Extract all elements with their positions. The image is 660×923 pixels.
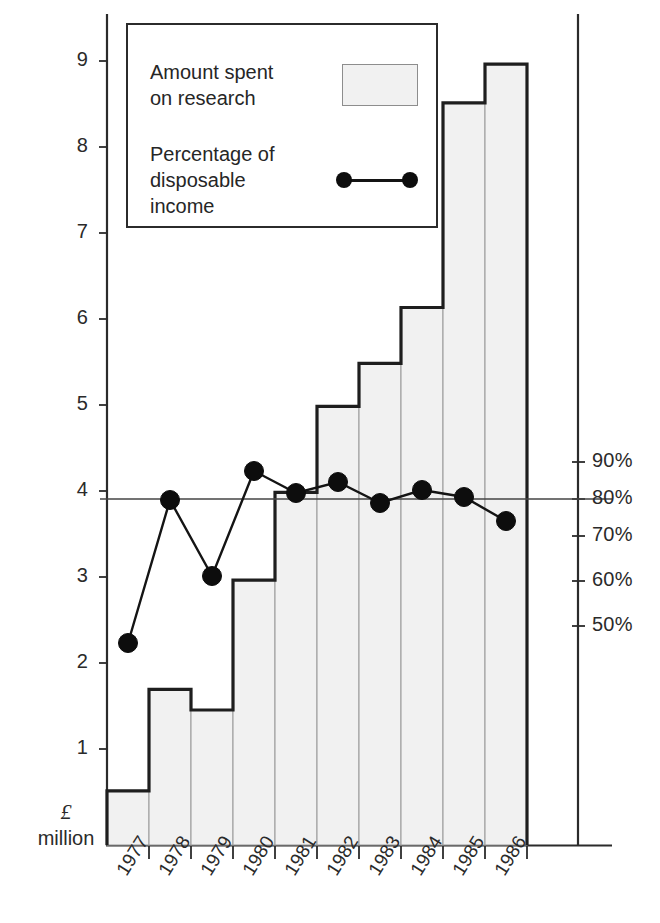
left-axis-unit-caption: £ million: [30, 798, 102, 851]
marker-1977: [119, 634, 138, 653]
chart-figure: 9 8 7 6 5 4 3 2 1 90% 80% 70% 60% 50% 19…: [0, 0, 660, 923]
bar-1986: [485, 64, 527, 845]
marker-1982: [329, 473, 348, 492]
marker-1980: [245, 462, 264, 481]
left-tick-label-7: 7: [48, 220, 88, 243]
left-tick-label-8: 8: [48, 134, 88, 157]
legend-dot-left-icon: [336, 172, 352, 188]
marker-1986: [497, 512, 516, 531]
left-tick-label-4: 4: [48, 478, 88, 501]
right-tick-label-70: 70%: [592, 523, 633, 546]
right-tick-label-80: 80%: [592, 486, 633, 509]
bar-1978: [149, 689, 191, 845]
legend-dot-right-icon: [402, 172, 418, 188]
marker-1978: [161, 491, 180, 510]
right-tick-label-60: 60%: [592, 568, 633, 591]
marker-1984: [413, 481, 432, 500]
marker-1979: [203, 567, 222, 586]
currency-symbol: £: [30, 798, 102, 826]
chart-legend: Amount spent on research Percentage of d…: [126, 23, 438, 228]
legend-bar-swatch-icon: [342, 64, 418, 106]
left-tick-label-6: 6: [48, 306, 88, 329]
bar-1981: [275, 492, 317, 845]
unit-word: million: [38, 827, 95, 849]
marker-1981: [287, 484, 306, 503]
bar-1985: [443, 103, 485, 845]
right-tick-label-50: 50%: [592, 613, 633, 636]
left-tick-label-1: 1: [48, 736, 88, 759]
legend-label-line: Percentage of disposable income: [150, 141, 275, 219]
left-tick-label-9: 9: [48, 48, 88, 71]
marker-1983: [371, 494, 390, 513]
legend-line-marker-icon: [336, 170, 418, 190]
left-tick-label-5: 5: [48, 392, 88, 415]
bar-1979: [191, 710, 233, 845]
legend-entry-line: Percentage of disposable income: [128, 141, 436, 219]
right-tick-label-90: 90%: [592, 449, 633, 472]
bar-1980: [233, 580, 275, 845]
legend-entry-bars: Amount spent on research: [128, 59, 436, 111]
left-tick-label-3: 3: [48, 564, 88, 587]
marker-1985: [455, 488, 474, 507]
bar-1983: [359, 363, 401, 845]
bar-1984: [401, 308, 443, 846]
left-tick-label-2: 2: [48, 650, 88, 673]
legend-label-bars: Amount spent on research: [150, 59, 273, 111]
